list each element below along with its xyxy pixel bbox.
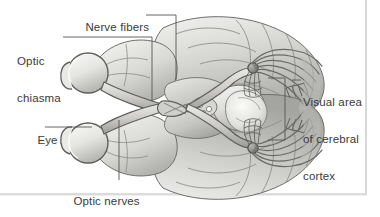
label-optic-nerves-text: Optic nerves bbox=[73, 195, 139, 207]
label-optic-chiasma-line1: Optic bbox=[17, 55, 61, 67]
eye-lower-group bbox=[61, 123, 108, 163]
pons bbox=[225, 91, 267, 133]
label-optic-chiasma: Optic chiasma bbox=[17, 30, 61, 129]
label-eye-text: Eye bbox=[37, 134, 57, 146]
mammillary-body-right bbox=[206, 106, 211, 111]
label-visual-area-line2: of cerebral bbox=[303, 133, 362, 145]
label-nerve-fibers-text: Nerve fibers bbox=[85, 21, 149, 33]
label-visual-area: Visual area of cerebral cortex bbox=[303, 71, 362, 207]
label-eye: Eye bbox=[24, 122, 58, 159]
label-visual-area-line3: cortex bbox=[303, 170, 362, 182]
label-optic-nerves: Optic nerves bbox=[60, 183, 140, 217]
figure-container: Nerve fibers Optic chiasma Visual area o… bbox=[0, 0, 380, 217]
label-visual-area-line1: Visual area bbox=[303, 96, 362, 108]
eye-upper-group bbox=[61, 53, 108, 93]
label-nerve-fibers: Nerve fibers bbox=[72, 9, 149, 46]
label-optic-chiasma-line2: chiasma bbox=[17, 92, 61, 104]
